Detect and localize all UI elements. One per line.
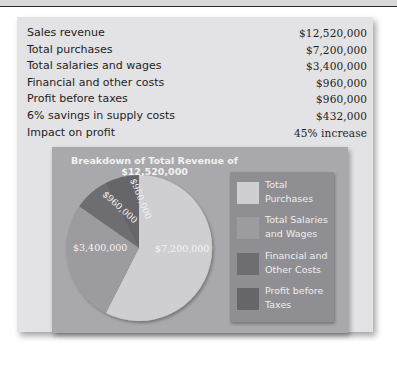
- row-value: $7,200,000: [306, 42, 367, 59]
- legend-swatch: [237, 182, 259, 204]
- legend-item-total-salaries: Total Salaries and Wages: [237, 213, 332, 247]
- table-row: Impact on profit 45% increase: [27, 125, 367, 142]
- row-label: 6% savings in supply costs: [27, 108, 175, 125]
- table-row: 6% savings in supply costs $432,000: [27, 108, 367, 125]
- legend-label: Profit before Taxes: [265, 284, 335, 311]
- revenue-panel: Sales revenue $12,520,000 Total purchase…: [17, 17, 373, 332]
- legend-item-total-purchases: Total Purchases: [237, 178, 332, 212]
- legend-label-line: Profit before: [265, 284, 335, 298]
- legend-label-line: Financial and: [265, 249, 335, 263]
- table-row: Total purchases $7,200,000: [27, 42, 367, 59]
- legend-label-line: and Wages: [265, 227, 335, 241]
- legend-label-line: Taxes: [265, 298, 335, 312]
- slice-label-salaries: $3,400,000: [73, 242, 127, 253]
- row-label: Impact on profit: [27, 125, 115, 142]
- table-row: Profit before taxes $960,000: [27, 91, 367, 108]
- legend-item-financial-costs: Financial and Other Costs: [237, 249, 332, 283]
- pie-chart-box: $7,200,000 $3,400,000 $960,000 $960,000 …: [52, 147, 348, 333]
- row-value: $432,000: [316, 108, 367, 125]
- legend-label-line: Total: [265, 178, 335, 192]
- legend-swatch: [237, 217, 259, 239]
- table-row: Financial and other costs $960,000: [27, 75, 367, 92]
- legend-label-line: Purchases: [265, 192, 335, 206]
- row-value: $3,400,000: [306, 58, 367, 75]
- table-row: Total salaries and wages $3,400,000: [27, 58, 367, 75]
- legend-label: Total Salaries and Wages: [265, 213, 335, 240]
- chart-legend: Total Purchases Total Salaries and Wages…: [230, 172, 334, 322]
- legend-label: Total Purchases: [265, 178, 335, 205]
- legend-swatch: [237, 253, 259, 275]
- financial-summary-table: Sales revenue $12,520,000 Total purchase…: [27, 25, 367, 141]
- legend-label: Financial and Other Costs: [265, 249, 335, 276]
- top-rule: [0, 0, 397, 7]
- legend-label-line: Total Salaries: [265, 213, 335, 227]
- row-label: Financial and other costs: [27, 75, 164, 92]
- row-label: Sales revenue: [27, 25, 105, 42]
- row-value: $960,000: [316, 91, 367, 108]
- legend-swatch: [237, 288, 259, 310]
- row-value: 45% increase: [294, 125, 367, 142]
- row-label: Total purchases: [27, 42, 112, 59]
- slice-label-purchases: $7,200,000: [155, 243, 209, 254]
- row-value: $12,520,000: [299, 25, 367, 42]
- table-row: Sales revenue $12,520,000: [27, 25, 367, 42]
- row-value: $960,000: [316, 75, 367, 92]
- legend-item-profit-before-taxes: Profit before Taxes: [237, 284, 332, 318]
- chart-title: Breakdown of Total Revenue of $12,520,00…: [52, 155, 257, 177]
- row-label: Total salaries and wages: [27, 58, 161, 75]
- row-label: Profit before taxes: [27, 91, 128, 108]
- legend-label-line: Other Costs: [265, 263, 335, 277]
